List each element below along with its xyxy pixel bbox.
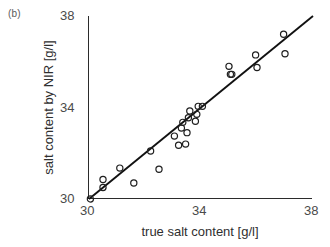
data-point <box>226 63 232 69</box>
x-axis-title: true salt content [g/l] <box>88 224 312 239</box>
plot-canvas <box>89 16 313 199</box>
data-point <box>281 31 287 37</box>
y-axis-title: salt content by NIR [g/l] <box>41 13 56 203</box>
scatter-plot-figure: (b) 38 34 30 30 34 38 true salt content … <box>0 0 330 247</box>
y-tick-label-30: 30 <box>60 191 74 206</box>
data-point <box>282 51 288 57</box>
data-point <box>253 52 259 58</box>
data-point <box>156 166 162 172</box>
x-tick-label-34: 34 <box>192 203 206 218</box>
data-point <box>131 180 137 186</box>
plot-area <box>88 16 312 199</box>
data-point <box>254 64 260 70</box>
data-point <box>184 130 190 136</box>
data-point <box>117 165 123 171</box>
x-tick-label-38: 38 <box>304 203 318 218</box>
y-tick-label-38: 38 <box>60 8 74 23</box>
data-point <box>183 141 189 147</box>
data-point <box>171 133 177 139</box>
panel-label: (b) <box>8 8 21 19</box>
data-point <box>100 176 106 182</box>
y-tick-label-34: 34 <box>60 100 74 115</box>
data-point <box>187 108 193 114</box>
data-point <box>194 111 200 117</box>
x-tick-label-30: 30 <box>80 203 94 218</box>
data-point <box>192 118 198 124</box>
data-point <box>176 142 182 148</box>
